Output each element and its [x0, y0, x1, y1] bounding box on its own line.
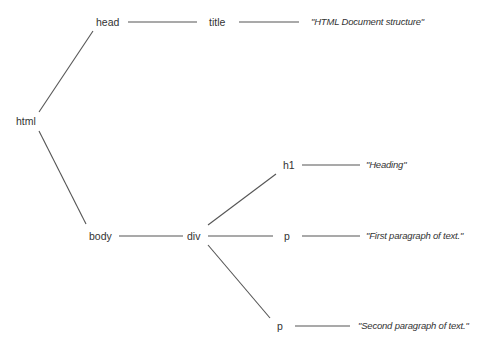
node-body: body — [89, 230, 112, 242]
edge-div-p2 — [208, 245, 270, 318]
node-div: div — [187, 230, 200, 242]
node-html: html — [16, 115, 36, 127]
node-p1: p — [284, 230, 290, 242]
edge-html-body — [39, 131, 86, 224]
tree-edges — [0, 0, 487, 348]
edge-div-h1 — [208, 174, 276, 225]
leaf-p2-text: "Second paragraph of text." — [358, 320, 469, 332]
leaf-title-text: "HTML Document structure" — [311, 16, 424, 28]
edge-html-head — [39, 31, 93, 112]
node-h1: h1 — [283, 159, 295, 171]
node-title: title — [209, 16, 225, 28]
leaf-p1-text: "First paragraph of text." — [366, 230, 463, 242]
leaf-h1-text: "Heading" — [366, 159, 406, 171]
node-p2: p — [277, 320, 283, 332]
node-head: head — [96, 16, 119, 28]
